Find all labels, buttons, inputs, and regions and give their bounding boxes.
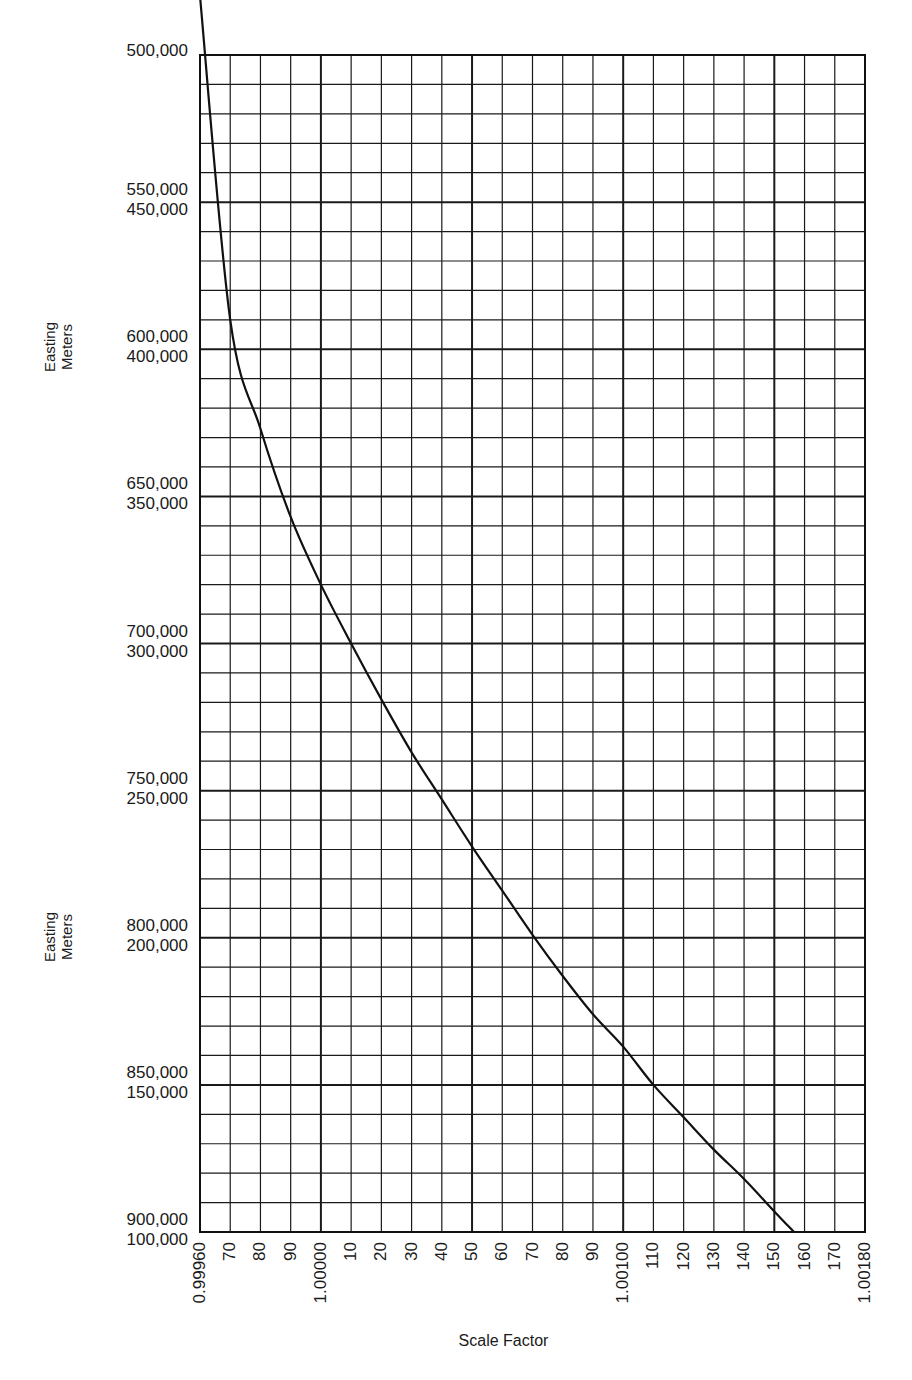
x-tick-label: 70 xyxy=(523,1242,543,1337)
y-tick-label-east: 750,000 xyxy=(60,769,188,789)
y-tick-label: 900,000100,000 xyxy=(60,1210,188,1250)
y-tick-label-east: 800,000 xyxy=(60,916,188,936)
y-tick-label-west: 350,000 xyxy=(60,494,188,514)
y-tick-label-west: 300,000 xyxy=(60,642,188,662)
y-tick-label-west: 450,000 xyxy=(60,200,188,220)
x-tick-label: 1.00100 xyxy=(613,1242,633,1337)
y-tick-label-east: 600,000 xyxy=(60,327,188,347)
x-tick-label: 40 xyxy=(432,1242,452,1337)
y-tick-label-east: 500,000 xyxy=(60,41,188,61)
y-tick-label-west: 100,000 xyxy=(60,1230,188,1250)
y-axis-title-line1: Easting xyxy=(41,897,58,977)
x-tick-label: 50 xyxy=(462,1242,482,1337)
y-tick-label-west: 250,000 xyxy=(60,789,188,809)
y-tick-label-east: 900,000 xyxy=(60,1210,188,1230)
y-axis-title-line2: Meters xyxy=(58,897,75,977)
y-axis-title-upper: Easting Meters xyxy=(41,307,75,387)
y-tick-label: 700,000300,000 xyxy=(60,622,188,662)
x-axis-title: Scale Factor xyxy=(0,1332,912,1350)
y-tick-label: 650,000350,000 xyxy=(60,474,188,514)
y-tick-label: 850,000150,000 xyxy=(60,1063,188,1103)
x-tick-label: 10 xyxy=(341,1242,361,1337)
x-tick-label: 0.99960 xyxy=(190,1242,210,1337)
x-tick-label: 150 xyxy=(764,1242,784,1337)
x-tick-label: 20 xyxy=(371,1242,391,1337)
y-tick-label-east: 850,000 xyxy=(60,1063,188,1083)
y-tick-label: 600,000400,000 xyxy=(60,327,188,367)
x-tick-label: 90 xyxy=(583,1242,603,1337)
x-tick-label: 30 xyxy=(402,1242,422,1337)
y-axis-title-lower: Easting Meters xyxy=(41,897,75,977)
x-tick-label: 80 xyxy=(250,1242,270,1337)
y-axis-title-line1: Easting xyxy=(41,307,58,387)
y-tick-label: 550,000450,000 xyxy=(60,180,188,220)
x-tick-label: 90 xyxy=(281,1242,301,1337)
y-tick-label: 750,000250,000 xyxy=(60,769,188,809)
y-tick-label-west: 150,000 xyxy=(60,1083,188,1103)
x-tick-label: 110 xyxy=(643,1242,663,1337)
y-tick-label-west: 400,000 xyxy=(60,347,188,367)
x-tick-label: 130 xyxy=(704,1242,724,1337)
scale-factor-curve xyxy=(200,0,794,1232)
x-tick-label: 1.00180 xyxy=(855,1242,875,1337)
x-tick-label: 80 xyxy=(553,1242,573,1337)
y-tick-label-west: 200,000 xyxy=(60,936,188,956)
y-axis-title-line2: Meters xyxy=(58,307,75,387)
y-tick-label-east: 650,000 xyxy=(60,474,188,494)
x-tick-label: 60 xyxy=(492,1242,512,1337)
x-tick-label: 70 xyxy=(220,1242,240,1337)
x-tick-label: 140 xyxy=(734,1242,754,1337)
y-tick-label: 500,000 xyxy=(60,41,188,61)
y-tick-label-east: 550,000 xyxy=(60,180,188,200)
y-tick-label: 800,000200,000 xyxy=(60,916,188,956)
x-tick-label: 120 xyxy=(674,1242,694,1337)
x-tick-label: 170 xyxy=(825,1242,845,1337)
x-tick-label: 1.00000 xyxy=(311,1242,331,1337)
y-tick-label-east: 700,000 xyxy=(60,622,188,642)
x-tick-label: 160 xyxy=(795,1242,815,1337)
